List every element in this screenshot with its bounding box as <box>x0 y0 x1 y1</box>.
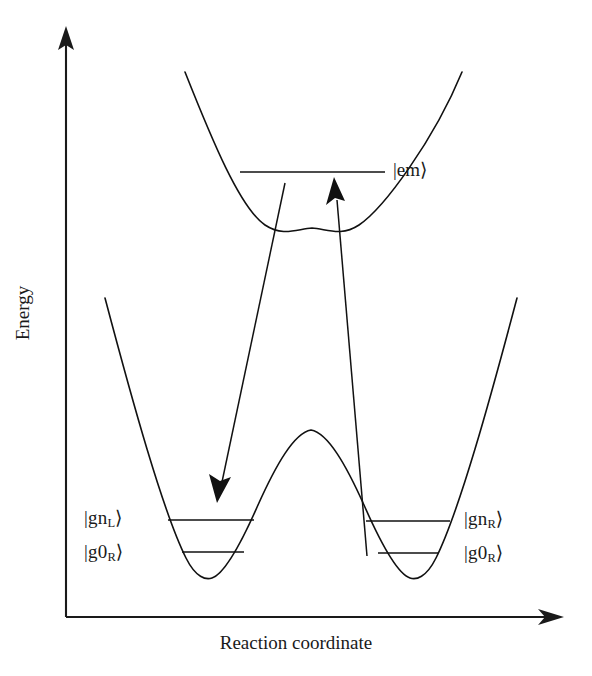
ground-state-double-well <box>105 298 517 579</box>
ground-state-curve-group <box>105 298 517 579</box>
absorption-arrow-shaft <box>337 200 367 556</box>
state-label-g0-left-ket: ⟩ <box>116 541 124 562</box>
state-label-g0-right-subscript: R <box>487 551 495 565</box>
emission-arrow-shaft <box>222 183 285 482</box>
excited-state-parabola <box>185 72 462 232</box>
state-label-em-text: |em⟩ <box>393 159 427 180</box>
y-axis-title: Energy <box>12 263 34 363</box>
state-label-gn-right: |gnR⟩ <box>464 509 503 530</box>
potential-energy-diagram: |em⟩ |gnL⟩ |g0R⟩ |gnR⟩ |g0R⟩ Reaction co… <box>0 0 592 676</box>
x-axis-title: Reaction coordinate <box>0 632 592 654</box>
diagram-canvas <box>0 0 592 676</box>
state-label-g0-left: |g0R⟩ <box>84 542 123 563</box>
state-label-g0-right: |g0R⟩ <box>464 543 503 564</box>
state-label-gn-left-text: |gn <box>84 507 107 528</box>
state-label-gn-left-subscript: L <box>107 516 115 530</box>
energy-level-lines-group <box>168 172 450 553</box>
state-label-em: |em⟩ <box>393 160 427 179</box>
state-label-gn-left-ket: ⟩ <box>115 507 123 528</box>
state-label-g0-right-text: |g0 <box>464 542 487 563</box>
state-label-g0-right-ket: ⟩ <box>496 542 504 563</box>
excited-state-curve-group <box>185 72 462 232</box>
state-label-g0-left-subscript: R <box>107 550 115 564</box>
state-label-gn-left: |gnL⟩ <box>84 508 123 529</box>
state-label-gn-right-text: |gn <box>464 508 487 529</box>
state-label-gn-right-subscript: R <box>487 517 495 531</box>
state-label-g0-left-text: |g0 <box>84 541 107 562</box>
state-label-gn-right-ket: ⟩ <box>496 508 504 529</box>
emission-arrowhead-icon <box>209 474 231 503</box>
emission-arrow-group <box>209 183 285 503</box>
axes-group <box>58 26 564 625</box>
absorption-arrowhead-icon <box>326 177 345 205</box>
